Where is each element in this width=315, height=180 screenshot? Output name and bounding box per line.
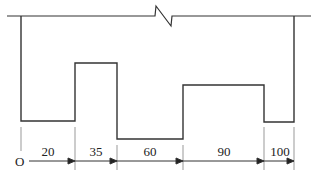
step-profile-diagram: O 20 35 60 90 100 bbox=[0, 0, 315, 180]
arrow-icon bbox=[176, 158, 183, 164]
top-boundary-with-break bbox=[7, 6, 311, 26]
break-line-icon bbox=[7, 6, 311, 26]
dimension-axis bbox=[29, 158, 294, 164]
arrow-icon bbox=[110, 158, 117, 164]
dimension-label-100: 100 bbox=[270, 144, 290, 159]
dimension-label-90: 90 bbox=[218, 144, 231, 159]
dimension-label-35: 35 bbox=[90, 144, 103, 159]
dimension-label-60: 60 bbox=[144, 144, 157, 159]
origin-label: O bbox=[15, 154, 24, 169]
step-profile bbox=[21, 16, 294, 139]
arrow-icon bbox=[68, 158, 75, 164]
arrow-icon bbox=[257, 158, 264, 164]
dimension-label-20: 20 bbox=[42, 144, 55, 159]
extension-lines bbox=[21, 127, 294, 170]
